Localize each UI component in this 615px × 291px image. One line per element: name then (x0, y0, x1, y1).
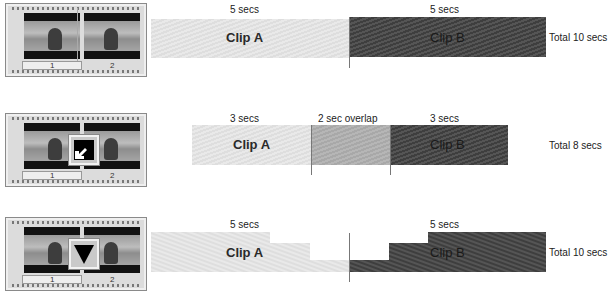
clip-a-label: Clip A (226, 245, 263, 260)
thumbnail-frame-1[interactable] (24, 13, 80, 59)
clip-b-duration: 3 secs (430, 113, 459, 124)
overlap-bar (311, 125, 390, 165)
clip-a-label: Clip A (226, 30, 263, 45)
sprocket-holes (12, 70, 140, 73)
cut-divider (349, 17, 350, 68)
clip-a-label: Clip A (233, 137, 270, 152)
frame-number-2: 2 (110, 275, 114, 284)
clip-b-duration: 5 secs (430, 219, 459, 230)
frame-number-1: 1 (50, 275, 54, 284)
frame-number-1: 1 (50, 61, 54, 70)
total-duration: Total 10 secs (549, 247, 607, 258)
thumbnail-frame-2[interactable] (84, 13, 140, 59)
clip-b-label: Clip B (430, 245, 465, 260)
sprocket-holes (12, 221, 140, 224)
fade-divider (349, 233, 350, 282)
sprocket-holes (12, 284, 140, 287)
frame-number-1: 1 (50, 171, 54, 180)
overlap-transition-icon[interactable] (69, 135, 99, 165)
total-duration: Total 8 secs (549, 140, 602, 151)
clip-b-duration: 5 secs (430, 4, 459, 15)
filmstrip-row1: 1 2 (5, 3, 147, 77)
sprocket-holes (12, 180, 140, 183)
clip-a-duration: 5 secs (230, 219, 259, 230)
clip-b-label: Clip B (430, 30, 465, 45)
frame-number-2: 2 (110, 61, 114, 70)
clip-a-duration: 3 secs (230, 113, 259, 124)
filmstrip-row2: 1 2 (5, 113, 147, 187)
overlap-end-divider (390, 125, 391, 175)
overlap-duration: 2 sec overlap (318, 113, 377, 124)
sprocket-holes (12, 117, 140, 120)
total-duration: Total 10 secs (549, 32, 607, 43)
fade-down-triangle-icon[interactable] (69, 239, 99, 269)
filmstrip-row3: 1 2 (5, 217, 147, 291)
frame-number-2: 2 (110, 171, 114, 180)
overlap-start-divider (311, 125, 312, 175)
clip-a-duration: 5 secs (230, 4, 259, 15)
sprocket-holes (12, 7, 140, 10)
clip-b-label: Clip B (430, 137, 465, 152)
